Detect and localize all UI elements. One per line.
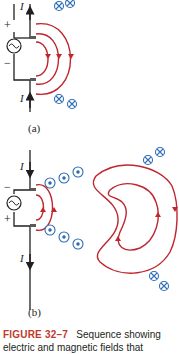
current-label-top-a: I: [20, 0, 24, 12]
b-field-cross-icons-b: [144, 148, 169, 291]
capacitor-plate-top-a: [30, 36, 36, 39]
current-label-bottom-a: I: [20, 92, 24, 104]
capacitor-plate-bottom-a: [30, 78, 36, 81]
figure-svg: [0, 0, 179, 330]
source-plus-b: +: [4, 212, 11, 227]
capacitor-plate-top-b: [30, 188, 36, 191]
electric-field-lines-b: [36, 165, 177, 273]
source-plus-a: +: [4, 18, 11, 33]
capacitor-plate-bottom-b: [30, 224, 36, 227]
panel-label-a: (a): [28, 122, 40, 134]
figure-caption: FIGURE 32–7 Sequence showing electric an…: [3, 328, 179, 354]
ac-source-icon-a: [7, 39, 21, 53]
ac-source-icon-b: [7, 196, 21, 210]
field-arrows-a: [45, 54, 74, 59]
panel-label-b: (b): [28, 306, 41, 318]
b-field-dot-icons-b: [45, 167, 83, 249]
electric-field-lines-a: [36, 24, 71, 95]
current-label-top-b: I: [20, 160, 24, 172]
circuit-wire-b: [14, 150, 30, 310]
source-minus-b: −: [4, 180, 11, 195]
figure-number: FIGURE 32–7: [3, 329, 68, 340]
panel-a-diagram: [7, 0, 77, 112]
current-label-bottom-b: I: [20, 252, 24, 264]
panel-b-diagram: [7, 148, 178, 311]
source-minus-a: −: [4, 56, 11, 71]
